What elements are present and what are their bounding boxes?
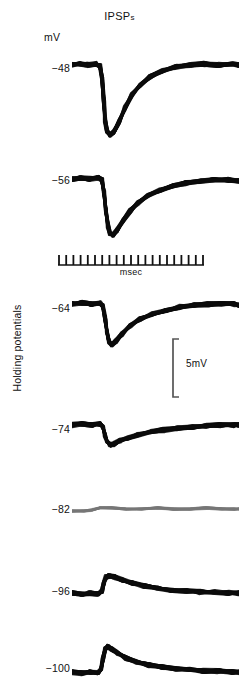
trace-label-holding-potential: −82 — [52, 503, 70, 515]
units-label-mv: mV — [44, 31, 60, 43]
time-scalebar: msec — [58, 253, 204, 279]
trace-row: −82 — [0, 498, 239, 524]
time-scalebar-ticks — [58, 253, 204, 267]
figure-title-main: IPSP — [104, 10, 130, 22]
trace-label-holding-potential: −100 — [46, 662, 70, 674]
trace-waveform — [72, 498, 239, 524]
trace-label-holding-potential: −56 — [52, 174, 70, 186]
figure-title: IPSPs — [0, 10, 239, 22]
trace-waveform — [72, 166, 239, 250]
trace-label-holding-potential: −64 — [52, 302, 70, 314]
figure-title-subscript: s — [130, 13, 134, 22]
trace-waveform — [72, 636, 239, 690]
time-scalebar-label: msec — [58, 267, 204, 277]
trace-row: −48 — [0, 48, 239, 148]
trace-waveform — [72, 415, 239, 469]
voltage-scalebar-bracket — [170, 337, 186, 401]
voltage-scalebar: 5mV — [170, 337, 230, 401]
trace-row: −96 — [0, 563, 239, 607]
trace-label-holding-potential: −48 — [52, 62, 70, 74]
trace-label-holding-potential: −74 — [52, 423, 70, 435]
trace-row: −56 — [0, 166, 239, 250]
trace-waveform — [72, 563, 239, 607]
trace-row: −74 — [0, 415, 239, 469]
trace-waveform — [72, 48, 239, 148]
trace-label-holding-potential: −96 — [52, 585, 70, 597]
ipsp-figure: IPSPs mV Holding potentials −48−56−64−74… — [0, 0, 239, 699]
voltage-scalebar-label: 5mV — [186, 358, 207, 369]
trace-row: −100 — [0, 636, 239, 690]
